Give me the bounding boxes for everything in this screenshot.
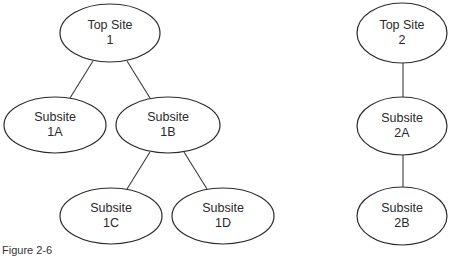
node-number: 1B: [160, 125, 175, 139]
figure-caption: Figure 2-6: [2, 244, 52, 256]
edge-sub1b-sub1c: [127, 152, 150, 189]
node-number: 1C: [103, 216, 119, 230]
node-subsite-1a: Subsite 1A: [4, 97, 106, 153]
node-number: 2B: [394, 216, 409, 230]
node-number: 1D: [215, 216, 231, 230]
node-subsite-1d: Subsite 1D: [172, 188, 274, 244]
edge-top1-sub1a: [70, 61, 93, 98]
node-top-site-2: Top Site 2: [357, 3, 447, 63]
node-subsite-1b: Subsite 1B: [116, 97, 220, 153]
node-label: Subsite: [90, 201, 132, 215]
node-subsite-1c: Subsite 1C: [60, 188, 162, 244]
node-label: Subsite: [147, 110, 189, 124]
edge-top1-sub1b: [127, 61, 150, 98]
edge-sub1b-sub1d: [184, 152, 207, 189]
node-number: 1A: [47, 125, 63, 139]
node-label: Subsite: [34, 110, 76, 124]
node-number: 2A: [394, 126, 410, 140]
node-number: 2: [399, 33, 406, 47]
node-label: Subsite: [202, 201, 244, 215]
node-top-site-1: Top Site 1: [60, 4, 160, 62]
node-subsite-2a: Subsite 2A: [357, 97, 447, 155]
node-label: Subsite: [381, 111, 423, 125]
node-label: Subsite: [381, 201, 423, 215]
node-label: Top Site: [87, 18, 132, 32]
node-number: 1: [107, 33, 114, 47]
node-subsite-2b: Subsite 2B: [357, 187, 447, 245]
node-label: Top Site: [379, 18, 424, 32]
